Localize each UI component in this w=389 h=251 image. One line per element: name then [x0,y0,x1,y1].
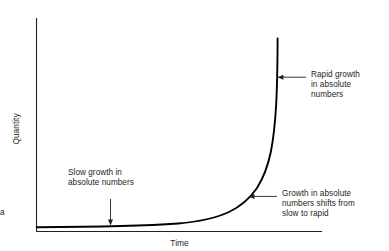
exponential-growth-curve [37,39,278,228]
annotation-slow-growth: Slow growth in absolute numbers [68,168,160,188]
annotation-rapid-growth: Rapid growth in absolute numbers [311,70,389,100]
exponential-growth-figure: Rapid growth in absolute numbers Growth … [0,0,389,251]
y-axis-label: Quantity [11,99,21,159]
annotation-growth-shift: Growth in absolute numbers shifts from s… [282,189,389,219]
x-axis-label: Time [0,238,359,248]
rapid-growth-leader [277,75,306,80]
growth-shift-leader [248,194,277,199]
cropped-edge-character: a [0,208,7,217]
slow-growth-leader [108,199,113,226]
